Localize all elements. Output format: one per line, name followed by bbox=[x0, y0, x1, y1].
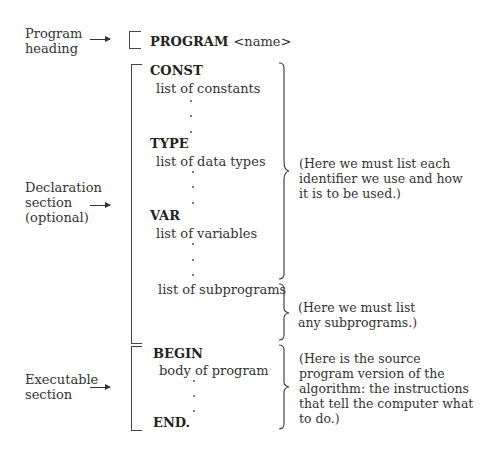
arrow-declaration-section-icon bbox=[90, 205, 110, 206]
note-line: that tell the computer what bbox=[299, 396, 473, 411]
ellipsis-dot bbox=[190, 115, 192, 117]
ellipsis-dot bbox=[193, 395, 195, 397]
const-list: list of constants bbox=[156, 81, 261, 96]
ellipsis-dot bbox=[192, 202, 194, 204]
program-keyword: PROGRAM bbox=[150, 34, 228, 49]
var-keyword: VAR bbox=[150, 208, 180, 223]
label-line: section bbox=[25, 387, 98, 402]
note-line: to do.) bbox=[299, 411, 473, 426]
note-line: (Here we must list bbox=[298, 300, 417, 315]
ellipsis-dot bbox=[193, 380, 195, 382]
ellipsis-dot bbox=[192, 171, 194, 173]
type-list: list of data types bbox=[156, 154, 266, 169]
note-line: (Here is the source bbox=[299, 351, 473, 366]
begin-keyword: BEGIN bbox=[153, 346, 203, 361]
label-program-heading: Program heading bbox=[25, 26, 82, 56]
var-list: list of variables bbox=[156, 226, 257, 241]
note-source: (Here is the source program version of t… bbox=[299, 351, 473, 426]
end-keyword: END. bbox=[153, 415, 190, 430]
program-heading-line: PROGRAM <name> bbox=[150, 31, 291, 50]
note-line: algorithm: the instructions bbox=[299, 381, 473, 396]
brace-identifiers-icon bbox=[278, 62, 292, 280]
note-identifiers: (Here we must list each identifier we us… bbox=[299, 156, 463, 201]
note-line: identifier we use and how bbox=[299, 171, 463, 186]
ellipsis-dot bbox=[193, 410, 195, 412]
ellipsis-dot bbox=[192, 274, 194, 276]
note-line: (Here we must list each bbox=[299, 156, 463, 171]
ellipsis-dot bbox=[192, 259, 194, 261]
brace-source-icon bbox=[278, 344, 292, 430]
program-name-arg: <name> bbox=[233, 34, 291, 49]
label-line: heading bbox=[25, 41, 82, 56]
const-keyword: CONST bbox=[150, 63, 203, 78]
executable-bracket bbox=[131, 346, 142, 431]
label-line: Program bbox=[25, 26, 82, 41]
arrow-executable-section-icon bbox=[90, 387, 110, 388]
ellipsis-dot bbox=[192, 186, 194, 188]
label-line: Declaration bbox=[25, 180, 102, 195]
ellipsis-dot bbox=[190, 100, 192, 102]
label-line: Executable bbox=[25, 372, 98, 387]
arrow-program-heading-icon bbox=[90, 39, 110, 40]
label-line: section bbox=[25, 195, 102, 210]
note-line: program version of the bbox=[299, 366, 473, 381]
label-declaration-section: Declaration section (optional) bbox=[25, 180, 102, 225]
subprograms-list: list of subprograms bbox=[158, 282, 286, 297]
note-subprograms: (Here we must list any subprograms.) bbox=[298, 300, 417, 330]
label-line: (optional) bbox=[25, 210, 102, 225]
brace-subprograms-icon bbox=[278, 283, 292, 341]
program-heading-bracket bbox=[129, 31, 141, 49]
program-body: body of program bbox=[159, 363, 269, 378]
note-line: it is to be used.) bbox=[299, 186, 463, 201]
label-executable-section: Executable section bbox=[25, 372, 98, 402]
note-line: any subprograms.) bbox=[298, 315, 417, 330]
type-keyword: TYPE bbox=[150, 136, 189, 151]
ellipsis-dot bbox=[192, 243, 194, 245]
ellipsis-dot bbox=[190, 131, 192, 133]
declaration-bracket bbox=[131, 64, 142, 344]
